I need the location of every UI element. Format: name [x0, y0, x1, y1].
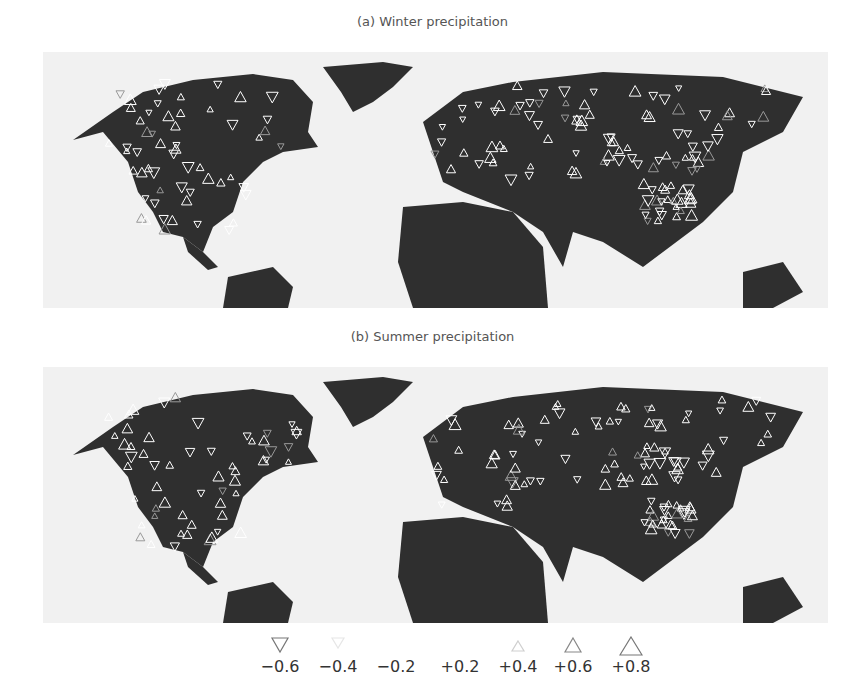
triangle-up-icon: [543, 636, 603, 658]
legend-item: +0.8: [601, 636, 661, 676]
station-marker-positive: [147, 540, 155, 547]
legend-item: −0.2: [366, 636, 426, 676]
triangle-up-icon: [488, 636, 548, 658]
triangle-down-icon: [308, 636, 368, 658]
legend-label: +0.2: [430, 658, 490, 676]
legend-label: +0.4: [488, 658, 548, 676]
map-panel-winter: [43, 52, 828, 308]
legend-label: +0.6: [543, 658, 603, 676]
station-marker-positive: [136, 533, 145, 541]
landmasses: [73, 377, 803, 623]
legend-label: −0.2: [366, 658, 426, 676]
station-marker-negative: [116, 91, 124, 99]
landmass-north-america: [73, 74, 318, 252]
landmass-greenland: [323, 377, 413, 427]
station-marker-negative: [225, 227, 234, 235]
panel-a-title: (a) Winter precipitation: [0, 14, 865, 29]
triangle-down-icon: [250, 636, 310, 658]
world-map-winter: [43, 52, 828, 308]
map-panel-summer: [43, 367, 828, 623]
legend-label: −0.4: [308, 658, 368, 676]
station-marker-positive: [235, 527, 247, 538]
landmass-south-america: [223, 582, 293, 623]
legend-item: +0.4: [488, 636, 548, 676]
legend-item: −0.6: [250, 636, 310, 676]
legend-item: −0.4: [308, 636, 368, 676]
station-marker-positive: [229, 219, 237, 226]
panel-b-title: (b) Summer precipitation: [0, 329, 865, 344]
station-marker-positive: [138, 522, 145, 528]
world-map-summer: [43, 367, 828, 623]
station-marker-negative: [240, 190, 251, 200]
station-marker-negative: [438, 502, 445, 508]
landmass-southeast-asia: [743, 262, 803, 308]
legend: −0.6 −0.4 −0.2 +0.2 +0.4 +0.6 +0.8: [250, 636, 670, 696]
station-marker-positive: [105, 413, 113, 420]
landmass-greenland: [323, 62, 413, 112]
triangle-down-icon: [366, 636, 426, 658]
legend-label: −0.6: [250, 658, 310, 676]
landmass-south-america: [223, 267, 293, 308]
triangle-up-icon: [430, 636, 490, 658]
landmass-southeast-asia: [743, 577, 803, 623]
legend-item: +0.6: [543, 636, 603, 676]
legend-item: +0.2: [430, 636, 490, 676]
legend-label: +0.8: [601, 658, 661, 676]
triangle-up-icon: [601, 636, 661, 658]
